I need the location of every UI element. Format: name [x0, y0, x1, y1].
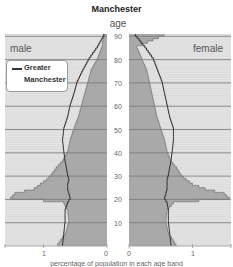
y-tick-label: 70	[114, 80, 122, 87]
male-label: male	[10, 43, 32, 54]
legend: Greater Manchester	[6, 60, 68, 92]
y-tick-label: 20	[114, 196, 122, 203]
female-label: female	[193, 43, 223, 54]
legend-label-line2: Manchester	[24, 75, 66, 84]
y-tick-label: 30	[114, 173, 122, 180]
x-tick-male-0: 0	[104, 250, 108, 257]
x-tick-female-1: 1	[191, 250, 195, 257]
x-axis-title: percentage of population in each age ban…	[0, 260, 233, 267]
y-tick-label: 60	[114, 103, 122, 110]
x-tick-male-1: 1	[42, 250, 46, 257]
x-tick-female-0: 0	[127, 250, 131, 257]
y-tick-label: 90	[114, 33, 122, 40]
y-tick-label: 40	[114, 150, 122, 157]
y-tick-label: 80	[114, 57, 122, 64]
legend-line-swatch	[12, 68, 22, 70]
y-tick-label: 50	[114, 127, 122, 134]
legend-label-line1: Greater	[24, 63, 51, 72]
y-tick-label: 10	[114, 220, 122, 227]
